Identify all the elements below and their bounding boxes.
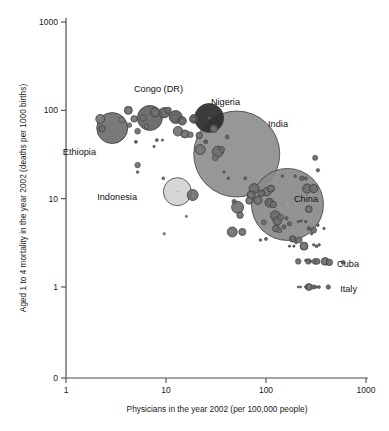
data-bubble[interactable]: [135, 162, 141, 168]
y-tick-label: 100: [44, 105, 58, 115]
x-tick-label: 100: [259, 385, 273, 395]
x-axis-title: Physicians in the year 2002 (per 100,000…: [127, 404, 308, 414]
data-bubble[interactable]: [161, 139, 163, 141]
data-bubble[interactable]: [293, 245, 295, 247]
data-bubble[interactable]: [304, 259, 307, 262]
bubble-label-china: China: [294, 194, 319, 204]
bubble-label-india: India: [268, 119, 289, 129]
data-bubble[interactable]: [297, 286, 299, 288]
bubble-center-dot: [253, 188, 254, 189]
bubble-italy[interactable]: [326, 285, 330, 289]
data-bubble[interactable]: [131, 116, 137, 122]
bubble-center-dot: [192, 194, 193, 195]
data-bubble[interactable]: [244, 177, 247, 180]
chart-canvas: 1101001000 10001001010 EthiopiaCongo (DR…: [0, 0, 389, 431]
data-bubble[interactable]: [232, 199, 236, 203]
data-bubble[interactable]: [311, 227, 317, 233]
bubble-center-dot: [249, 200, 250, 201]
data-bubble[interactable]: [136, 171, 139, 174]
data-bubble[interactable]: [127, 123, 132, 128]
data-bubble[interactable]: [99, 125, 105, 131]
data-bubble[interactable]: [237, 212, 243, 218]
data-bubble[interactable]: [295, 259, 301, 265]
bubble-center-dot: [270, 188, 271, 189]
data-bubble[interactable]: [323, 227, 326, 230]
data-bubble[interactable]: [140, 115, 146, 121]
data-bubble[interactable]: [318, 244, 321, 247]
bubble-center-dot: [175, 116, 176, 117]
bubble-center-dot: [277, 220, 278, 221]
bubble-center-dot: [232, 231, 233, 232]
data-bubble[interactable]: [225, 135, 229, 139]
bubble-center-dot: [313, 188, 314, 189]
data-bubble[interactable]: [227, 177, 230, 180]
bubble-center-dot: [303, 246, 304, 247]
data-bubble[interactable]: [155, 139, 158, 142]
data-bubble[interactable]: [314, 258, 320, 264]
data-bubble[interactable]: [304, 220, 307, 223]
data-bubble[interactable]: [315, 286, 318, 289]
y-tick-label: 0: [53, 373, 58, 383]
data-bubble[interactable]: [300, 286, 302, 288]
data-bubble[interactable]: [187, 132, 193, 138]
data-bubble[interactable]: [316, 224, 319, 227]
data-bubble[interactable]: [258, 190, 264, 196]
bubble-center-dot: [193, 118, 194, 119]
data-bubble[interactable]: [304, 177, 307, 180]
data-bubble[interactable]: [134, 140, 137, 143]
bubble-center-dot: [177, 131, 178, 132]
data-bubble[interactable]: [261, 220, 266, 225]
bubble-label-indonesia: Indonesia: [97, 192, 138, 202]
data-bubble[interactable]: [264, 237, 267, 240]
data-bubble[interactable]: [310, 260, 312, 262]
bubble-center-dot: [237, 207, 238, 208]
data-bubble[interactable]: [153, 145, 155, 147]
data-bubble[interactable]: [259, 239, 262, 242]
data-bubble[interactable]: [315, 245, 318, 248]
data-bubble[interactable]: [304, 286, 307, 289]
data-bubble[interactable]: [326, 259, 332, 265]
data-bubble[interactable]: [282, 225, 286, 229]
bubble-center-dot: [182, 120, 183, 121]
data-bubble[interactable]: [163, 233, 165, 235]
data-bubble[interactable]: [204, 140, 208, 144]
data-bubble[interactable]: [313, 155, 318, 160]
data-bubble[interactable]: [270, 201, 276, 207]
data-bubble[interactable]: [288, 245, 290, 247]
data-bubble[interactable]: [219, 147, 225, 153]
bubble-center-dot: [164, 112, 165, 113]
data-bubble[interactable]: [278, 214, 284, 220]
data-bubble[interactable]: [316, 168, 320, 172]
data-bubble[interactable]: [299, 176, 304, 181]
bubble-center-dot: [325, 261, 326, 262]
data-bubble[interactable]: [144, 124, 149, 129]
data-bubble[interactable]: [307, 227, 311, 231]
data-bubble[interactable]: [287, 222, 291, 226]
data-bubble[interactable]: [212, 155, 218, 161]
data-bubble[interactable]: [312, 244, 315, 247]
bubble-center-dot: [308, 286, 309, 287]
data-bubble[interactable]: [285, 216, 289, 220]
data-bubble[interactable]: [295, 241, 298, 244]
bubble-label-italy: Italy: [340, 284, 357, 294]
data-bubble[interactable]: [277, 228, 282, 233]
data-bubble[interactable]: [162, 177, 165, 180]
bubble-center-dot: [149, 117, 150, 118]
bubble-center-dot: [217, 151, 218, 152]
data-bubble[interactable]: [297, 220, 299, 222]
data-bubble[interactable]: [119, 117, 125, 123]
data-bubble[interactable]: [281, 175, 284, 178]
data-bubble[interactable]: [294, 175, 297, 178]
data-bubble[interactable]: [300, 220, 302, 222]
data-bubble[interactable]: [223, 171, 225, 173]
data-bubble[interactable]: [165, 107, 171, 113]
data-bubble[interactable]: [135, 128, 141, 134]
data-bubble[interactable]: [310, 233, 313, 236]
data-bubble[interactable]: [196, 132, 202, 138]
x-tick-label: 1000: [357, 385, 376, 395]
data-bubble[interactable]: [185, 215, 187, 217]
bubble-chart-figure: 1101001000 10001001010 EthiopiaCongo (DR…: [0, 0, 389, 431]
bubble-label-nigeria: Nigeria: [211, 97, 241, 107]
bubble-center-dot: [242, 231, 243, 232]
bubble-center-dot: [269, 202, 270, 203]
